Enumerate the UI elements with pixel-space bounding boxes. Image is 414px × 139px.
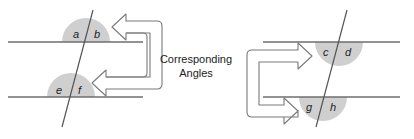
angle-label-h: h <box>330 101 336 113</box>
corresponding-angles-diagram: a b e f Corresponding Angles c d g h <box>0 0 414 139</box>
left-figure: a b e f <box>8 10 162 127</box>
diagram-canvas: a b e f Corresponding Angles c d g h <box>0 0 414 139</box>
angle-label-c: c <box>323 46 329 58</box>
caption-line-2: Angles <box>179 67 213 79</box>
caption-line-1: Corresponding <box>160 53 232 65</box>
angle-label-d: d <box>345 46 352 58</box>
arrow-outer-right <box>247 43 312 124</box>
angle-label-a: a <box>73 28 79 40</box>
angle-label-g: g <box>306 101 313 113</box>
angle-label-e: e <box>56 84 62 96</box>
right-figure: c d g h <box>247 10 400 127</box>
angle-label-b: b <box>94 28 100 40</box>
